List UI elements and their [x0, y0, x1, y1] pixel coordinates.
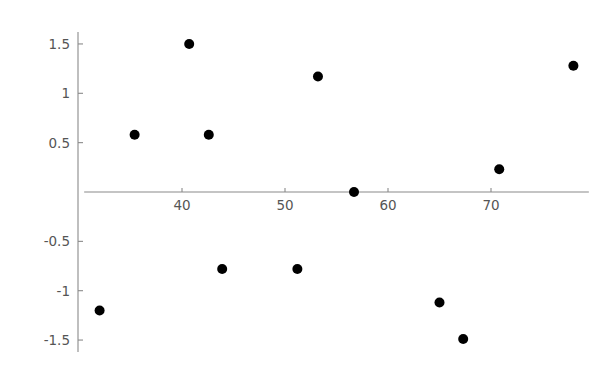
- x-tick-label: 40: [173, 197, 190, 213]
- data-point: [130, 130, 140, 140]
- data-point: [217, 264, 227, 274]
- data-point: [494, 164, 504, 174]
- y-tick-label: -0.5: [44, 233, 70, 249]
- data-point: [458, 334, 468, 344]
- x-tick-label: 50: [276, 197, 293, 213]
- y-tick-label: -1: [57, 283, 70, 299]
- x-axis: 40506070: [84, 188, 589, 213]
- data-point: [292, 264, 302, 274]
- data-point: [568, 61, 578, 71]
- y-axis: 1.510.5-0.5-1-1.5: [44, 32, 83, 352]
- x-tick-label: 70: [482, 197, 499, 213]
- data-point: [95, 305, 105, 315]
- data-point: [313, 72, 323, 82]
- x-tick-label: 60: [379, 197, 396, 213]
- y-tick-label: 1: [61, 85, 70, 101]
- data-point: [204, 130, 214, 140]
- y-tick-label: 1.5: [49, 36, 70, 52]
- data-point: [349, 187, 359, 197]
- y-tick-label: -1.5: [44, 332, 70, 348]
- data-point: [435, 298, 445, 308]
- scatter-plot-canvas: 40506070 1.510.5-0.5-1-1.5: [0, 0, 614, 368]
- data-point: [184, 39, 194, 49]
- scatter-plot-figure: 40506070 1.510.5-0.5-1-1.5: [0, 0, 614, 368]
- y-tick-label: 0.5: [49, 135, 70, 151]
